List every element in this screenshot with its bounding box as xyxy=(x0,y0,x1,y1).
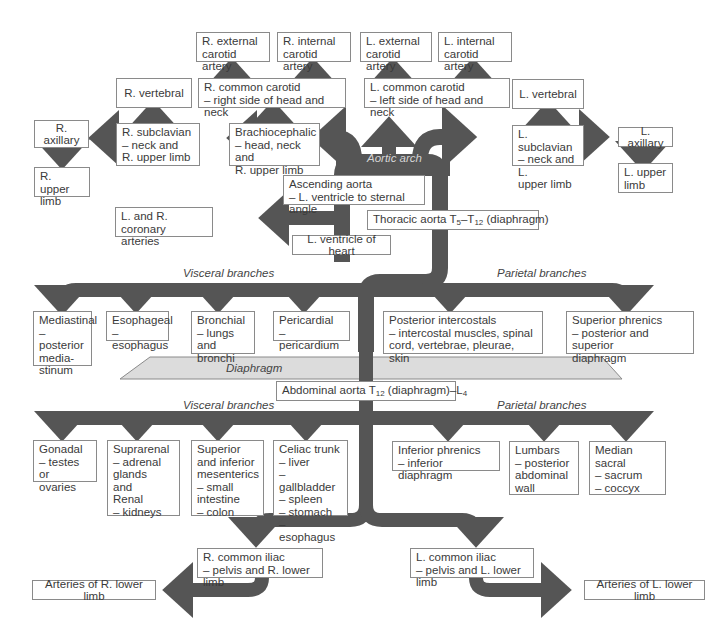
lumbars-box: Lumbars – posterior abdominal wall xyxy=(509,441,579,495)
gonadal-box: Gonadal – testes or ovaries xyxy=(33,440,97,482)
l-lower-limb-trunk xyxy=(476,578,562,590)
brachiocephalic-trunk xyxy=(322,138,354,160)
abdominal-aorta-box: Abdominal aorta T12 (diaphragm)–L4 xyxy=(276,381,456,401)
l-lower-limb-box: Arteries of L. lower limb xyxy=(584,580,705,600)
ascending-aorta-box: Ascending aorta – L. ventricle to sterna… xyxy=(283,175,425,205)
l-subclavian-trunk xyxy=(420,137,466,160)
median-sacral-box: Median sacral – sacrum – coccyx xyxy=(589,441,666,495)
r-internal-carotid-box: R. internal carotid artery xyxy=(277,32,351,62)
l-vertebral-box: L. vertebral xyxy=(512,79,584,109)
coronary-arteries-box: L. and R. coronary arteries xyxy=(115,207,213,237)
r-vertebral-box: R. vertebral xyxy=(116,78,192,108)
pericardial-box: Pericardial – pericardium xyxy=(273,311,350,341)
subscript: 12 xyxy=(474,218,483,227)
r-external-carotid-box: R. external carotid artery xyxy=(196,32,270,62)
mediastinal-box: Mediastinal – posterior media- stinum xyxy=(33,311,92,366)
celiac-trunk-box: Celiac trunk – liver – gallbladder – spl… xyxy=(273,440,348,516)
thoracic-aorta-box: Thoracic aorta T5–T12 (diaphragm) xyxy=(367,210,539,230)
l-common-iliac-box: L. common iliac – pelvis and L. lower li… xyxy=(410,548,534,578)
thoracic-aorta-text: (diaphragm) xyxy=(483,213,548,225)
diaphragm-label: Diaphragm xyxy=(226,362,282,374)
thoracic-aorta-text: Thoracic aorta T xyxy=(373,213,457,225)
r-common-carotid-box: R. common carotid – right side of head a… xyxy=(198,78,346,108)
l-external-carotid-box: L. external carotid artery xyxy=(360,32,432,62)
r-common-iliac-box: R. common iliac – pelvis and R. lower li… xyxy=(197,548,323,578)
brachiocephalic-box: Brachiocephalic – head, neck and R. uppe… xyxy=(229,123,320,166)
esophageal-box: Esophageal – esophagus xyxy=(106,311,169,341)
l-subclavian-box: L. subclavian – neck and L. upper limb xyxy=(512,125,584,166)
l-common-carotid-box: L. common carotid – left side of head an… xyxy=(364,78,510,108)
inferior-phrenics-box: Inferior phrenics – inferior diaphragm xyxy=(392,441,500,471)
l-axillary-box: L. axillary xyxy=(618,127,673,147)
thoracic-aorta-text: –T xyxy=(461,213,474,225)
superior-phrenics-box: Superior phrenics – posterior and superi… xyxy=(566,311,694,354)
l-internal-carotid-box: L. internal carotid artery xyxy=(438,32,512,62)
r-subclavian-box: R. subclavian – neck and R. upper limb xyxy=(116,123,200,166)
r-lower-limb-box: Arteries of R. lower limb xyxy=(32,580,156,600)
thoracic-visceral-label: Visceral branches xyxy=(183,267,274,279)
l-ventricle-box: L. ventricle of heart xyxy=(292,235,391,255)
abdominal-aorta-text: Abdominal aorta T xyxy=(282,384,376,396)
thoracic-branch-bar xyxy=(62,290,626,304)
aortic-arch-label: Aortic arch xyxy=(367,152,422,164)
bronchial-box: Bronchial – lungs and bronchi xyxy=(191,311,255,354)
abdominal-aorta-text: (diaphragm)–L xyxy=(385,384,463,396)
mesenterics-box: Superior and inferior mesenterics – smal… xyxy=(191,440,264,516)
subscript: 4 xyxy=(463,389,467,398)
l-upper-limb-box: L. upper limb xyxy=(618,163,673,193)
abdominal-parietal-label: Parietal branches xyxy=(497,399,587,411)
suprarenal-renal-box: Suprarenal – adrenal glands and Renal – … xyxy=(107,440,180,516)
thoracic-parietal-label: Parietal branches xyxy=(497,267,587,279)
abdominal-visceral-label: Visceral branches xyxy=(183,399,274,411)
r-upper-limb-box: R. upper limb xyxy=(34,167,90,197)
posterior-intercostals-box: Posterior intercostals – intercostal mus… xyxy=(383,311,543,354)
subscript: 12 xyxy=(376,389,385,398)
r-axillary-box: R. axillary xyxy=(34,120,89,148)
